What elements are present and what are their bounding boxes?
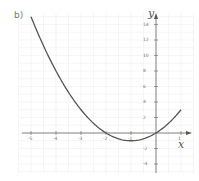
x-tick-label: -3 bbox=[78, 136, 83, 141]
x-tick-label: 1 bbox=[178, 136, 181, 141]
x-axis-arrow-icon bbox=[186, 131, 192, 135]
y-tick-label: 2 bbox=[143, 115, 146, 120]
x-tick-label: -5 bbox=[28, 136, 33, 141]
y-tick-label: 14 bbox=[143, 22, 149, 27]
y-tick-label: -4 bbox=[143, 161, 148, 166]
x-tick-label: -4 bbox=[53, 136, 58, 141]
y-axis-arrow-icon bbox=[154, 13, 158, 19]
part-label: b) bbox=[14, 10, 23, 20]
y-tick-label: -2 bbox=[143, 146, 148, 151]
y-tick-label: 12 bbox=[143, 37, 149, 42]
grid bbox=[19, 13, 194, 173]
y-tick-label: 10 bbox=[143, 53, 149, 58]
y-tick-label: 4 bbox=[143, 99, 146, 104]
x-tick-label: -2 bbox=[103, 136, 108, 141]
y-axis-label: y bbox=[148, 7, 154, 20]
y-tick-label: 8 bbox=[143, 68, 146, 73]
x-tick-label: -1 bbox=[128, 136, 133, 141]
graph bbox=[0, 0, 199, 181]
y-tick-label: 6 bbox=[143, 84, 146, 89]
